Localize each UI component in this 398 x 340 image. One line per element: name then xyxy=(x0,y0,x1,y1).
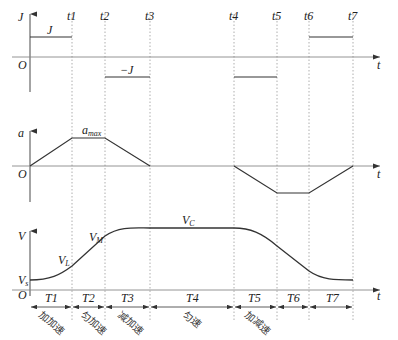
velocity-t-label: t xyxy=(377,289,381,303)
interval-labels: T1 T2 T3 T4 T5 T6 T7 xyxy=(45,291,340,305)
phase-label-jerk-accel: 加加速 xyxy=(37,309,67,337)
jerk-panel: J O t J −J t1 t2 t3 t4 t5 t6 t7 xyxy=(12,9,381,92)
phase-label-jerk-decel: 加减速 xyxy=(243,309,273,337)
jerk-origin-label: O xyxy=(18,58,27,72)
accel-t-label: t xyxy=(377,167,381,181)
time-mark-t4: t4 xyxy=(229,9,238,23)
jerk-positive-label: J xyxy=(47,23,53,37)
interval-label-t2: T2 xyxy=(82,291,95,305)
diagram-canvas: J O t J −J t1 t2 t3 t4 t5 t6 t7 a O t am… xyxy=(0,0,398,340)
velocity-y-label: V xyxy=(18,229,27,243)
time-mark-t5: t5 xyxy=(272,9,281,23)
vs-label: Vs xyxy=(18,273,28,288)
phase-label-uniform-accel: 匀加速 xyxy=(79,309,109,337)
acceleration-panel: a O t amax xyxy=(12,123,381,202)
time-mark-t6: t6 xyxy=(304,9,313,23)
jerk-t-label: t xyxy=(377,58,381,72)
phase-labels: 加加速 匀加速 减加速 匀速 加减速 xyxy=(37,309,273,337)
phase-label-constant-speed: 匀速 xyxy=(181,309,203,330)
accel-y-label: a xyxy=(18,126,24,140)
jerk-y-label: J xyxy=(18,10,24,24)
accel-negative-trapezoid xyxy=(234,166,353,193)
time-guide-lines xyxy=(72,14,353,320)
velocity-s-curve xyxy=(30,228,353,280)
phase-label-decreasing-accel: 减加速 xyxy=(116,309,146,337)
accel-origin-label: O xyxy=(18,167,27,181)
accel-positive-trapezoid xyxy=(30,138,150,166)
accel-max-label: amax xyxy=(82,123,102,138)
interval-label-t5: T5 xyxy=(248,291,261,305)
time-mark-t2: t2 xyxy=(100,9,109,23)
interval-label-t4: T4 xyxy=(186,291,199,305)
s-curve-velocity-profile-diagram: J O t J −J t1 t2 t3 t4 t5 t6 t7 a O t am… xyxy=(0,0,398,340)
vc-label: VC xyxy=(182,213,195,228)
time-mark-t1: t1 xyxy=(67,9,76,23)
velocity-origin-label: O xyxy=(18,288,27,302)
vm-label: VM xyxy=(89,230,104,245)
interval-label-t3: T3 xyxy=(121,291,134,305)
interval-label-t1: T1 xyxy=(45,291,58,305)
vl-label: VL xyxy=(58,253,70,268)
velocity-panel: V O t Vs VL VM VC xyxy=(12,213,381,303)
jerk-negative-label: −J xyxy=(120,63,134,77)
interval-label-t6: T6 xyxy=(287,291,300,305)
time-mark-t3: t3 xyxy=(145,9,154,23)
time-mark-t7: t7 xyxy=(348,9,358,23)
interval-label-t7: T7 xyxy=(326,291,340,305)
